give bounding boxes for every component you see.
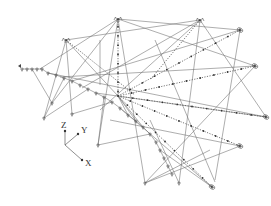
x-axis-line: [65, 145, 82, 160]
base-support-icon: [26, 68, 29, 71]
base-support-icon: [36, 68, 39, 71]
member-node: [145, 122, 147, 124]
end-marker-icon: [18, 64, 21, 68]
member-node: [164, 141, 166, 143]
member-node: [250, 114, 252, 116]
member-node: [155, 132, 157, 134]
frame-member: [72, 102, 112, 114]
member-node: [154, 75, 156, 77]
base-support-icon: [111, 101, 114, 104]
member-node: [174, 150, 176, 152]
member-node: [131, 92, 133, 94]
member-node: [254, 65, 256, 67]
member-node: [190, 125, 192, 127]
central-hub-node: [117, 95, 119, 97]
member-node: [206, 108, 208, 110]
frame-member: [98, 97, 104, 145]
member-node: [227, 36, 229, 38]
frame-member: [44, 40, 66, 118]
left-diagonal-member: [66, 40, 135, 95]
member-node: [117, 90, 119, 92]
frame-member: [120, 108, 212, 187]
frame-member: [40, 19, 118, 69]
base-support-icon: [163, 157, 166, 160]
member-node: [117, 63, 119, 65]
member-node: [203, 130, 205, 132]
member-node: [191, 106, 193, 108]
x-axis-arrow-icon: [81, 159, 83, 161]
frame-member: [145, 66, 255, 183]
frame-member: [110, 120, 240, 146]
member-node: [239, 145, 241, 147]
member-node: [117, 54, 119, 56]
member-node: [136, 113, 138, 115]
y-axis-line: [65, 134, 78, 145]
frame-member: [60, 66, 255, 77]
member-node: [186, 80, 188, 82]
frame-member: [100, 20, 200, 110]
member-node: [132, 97, 134, 99]
apex-left-node: [65, 39, 67, 41]
apex-center-node: [117, 18, 119, 20]
member-node: [117, 35, 119, 37]
z-axis-label: Z: [61, 120, 67, 130]
member-node: [154, 110, 156, 112]
frame-member: [66, 20, 200, 40]
frame-member: [118, 96, 128, 115]
member-node: [221, 110, 223, 112]
member-node: [265, 116, 267, 118]
member-node: [117, 26, 119, 28]
member-node: [213, 74, 215, 76]
member-node: [129, 89, 131, 91]
frame-member: [160, 150, 212, 187]
frame-member: [48, 73, 266, 117]
member-node: [172, 83, 174, 85]
frame-member: [72, 30, 240, 81]
member-node: [147, 99, 149, 101]
member-node: [162, 101, 164, 103]
y-axis-label: Y: [81, 125, 88, 135]
member-node: [176, 104, 178, 106]
frame-member: [118, 19, 255, 66]
member-node: [178, 62, 180, 64]
member-node: [227, 71, 229, 73]
z-axis-arrow-icon: [64, 130, 66, 132]
frame-member: [215, 30, 240, 180]
member-node: [166, 69, 168, 71]
base-support-icon: [47, 72, 50, 75]
frame-member: [98, 19, 118, 145]
base-support-icon: [71, 80, 74, 83]
base-support-icon: [103, 96, 106, 99]
member-node: [158, 86, 160, 88]
frame-model: Z Y X: [0, 0, 271, 206]
coordinate-triad: Z Y X: [61, 120, 92, 168]
base-support-icon: [21, 68, 24, 71]
member-node: [236, 112, 238, 114]
base-support-icon: [87, 88, 90, 91]
member-node: [166, 115, 168, 117]
base-support-icon: [167, 165, 170, 168]
member-node: [211, 186, 213, 188]
member-node: [117, 81, 119, 83]
base-support-icon: [127, 114, 130, 117]
frame-member: [155, 40, 215, 182]
base-support-icon: [41, 68, 44, 71]
member-node: [117, 44, 119, 46]
supports-layer: [18, 17, 270, 190]
member-node: [202, 177, 204, 179]
base-support-icon: [155, 141, 158, 144]
member-node: [142, 82, 144, 84]
structural-diagram: Z Y X: [0, 0, 271, 206]
base-support-icon: [119, 107, 122, 110]
y-axis-arrow-icon: [77, 133, 79, 135]
frame-member: [98, 134, 150, 145]
frame-member: [52, 19, 118, 103]
member-node: [215, 135, 217, 137]
member-node: [127, 104, 129, 106]
frame-member: [118, 19, 240, 30]
base-support-icon: [171, 173, 174, 176]
frame-member: [82, 20, 200, 88]
member-node: [183, 159, 185, 161]
x-axis-label: X: [85, 158, 92, 168]
frame-member: [44, 78, 64, 118]
